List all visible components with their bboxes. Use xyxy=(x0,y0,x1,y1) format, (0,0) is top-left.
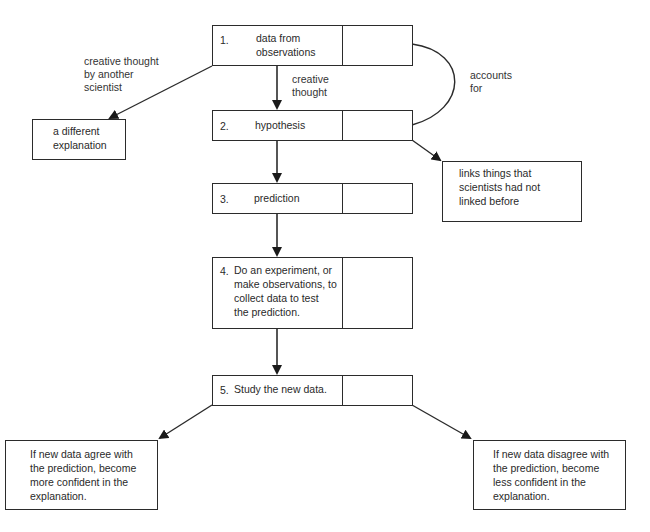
box-text-line: If new data agree with xyxy=(30,448,133,462)
step-number: 2. xyxy=(220,120,229,132)
disagree-outcome-box: If new data disagree with the prediction… xyxy=(473,440,626,510)
box-text-line: links things that xyxy=(459,167,531,181)
box-text-line: explanation. xyxy=(493,490,550,504)
box-text-line: a different xyxy=(53,125,100,139)
step-side-cell xyxy=(343,26,412,65)
links-things-box: links things that scientists had not lin… xyxy=(442,161,582,222)
another-scientist-label: by another xyxy=(84,68,134,82)
box-text-line: less confident in the xyxy=(493,476,586,490)
step-text-line: Do an experiment, or xyxy=(234,264,332,278)
step-text-line: observations xyxy=(256,46,316,60)
box-text-line: explanation. xyxy=(30,490,87,504)
step-text: hypothesis xyxy=(255,119,305,133)
step-text: prediction xyxy=(254,192,300,206)
step-4-box: 4. Do an experiment, or make observation… xyxy=(212,257,413,329)
step-1-box: 1. data from observations xyxy=(212,25,413,66)
step-2-box: 2. hypothesis xyxy=(212,110,413,141)
step-number: 1. xyxy=(220,34,229,46)
step-side-cell xyxy=(343,258,412,328)
step-side-cell xyxy=(343,376,412,405)
step-text-line: make observations, to xyxy=(234,278,337,292)
step-3-box: 3. prediction xyxy=(212,183,413,214)
step-text-line: data from xyxy=(256,32,300,46)
box-text-line: explanation xyxy=(53,139,107,153)
another-scientist-label: creative thought xyxy=(84,55,159,69)
step-number: 4. xyxy=(220,265,229,277)
agree-outcome-box: If new data agree with the prediction, b… xyxy=(5,440,158,510)
step-side-cell xyxy=(343,111,412,140)
step-text: Study the new data. xyxy=(234,383,327,397)
another-scientist-label: scientist xyxy=(84,81,122,95)
box-text-line: If new data disagree with xyxy=(493,448,609,462)
step-number: 5. xyxy=(220,384,229,396)
step-side-cell xyxy=(343,184,412,213)
box-text-line: the prediction, become xyxy=(30,462,136,476)
creative-thought-label: thought xyxy=(292,86,327,100)
different-explanation-box: a different explanation xyxy=(32,119,126,160)
box-text-line: linked before xyxy=(459,195,519,209)
accounts-for-label: accounts xyxy=(470,69,512,83)
creative-thought-label: creative xyxy=(292,73,329,87)
step-number: 3. xyxy=(220,193,229,205)
accounts-for-label: for xyxy=(470,82,482,96)
box-text-line: more confident in the xyxy=(30,476,128,490)
step-text-line: the prediction. xyxy=(234,306,300,320)
step-text-line: collect data to test xyxy=(234,292,319,306)
step-5-box: 5. Study the new data. xyxy=(212,375,413,406)
box-text-line: the prediction, become xyxy=(493,462,599,476)
box-text-line: scientists had not xyxy=(459,181,540,195)
